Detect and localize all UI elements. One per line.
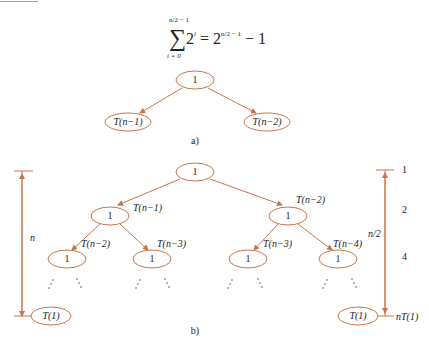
b-edge-label-l1-right: T(n−2) — [296, 194, 326, 206]
b-root-label: 1 — [193, 166, 198, 177]
b-edge-label-l1-left: T(n−1) — [133, 202, 163, 214]
b-l2-2-label: 1 — [150, 253, 155, 264]
b-l1-right-label: 1 — [286, 210, 291, 221]
left-height-label: n — [30, 232, 35, 243]
b-edge-label-l2-2: T(n−3) — [157, 238, 187, 250]
level-count-4: 4 — [402, 251, 407, 262]
right-height-label: n/2 — [368, 228, 381, 239]
b-l2-1-label: 1 — [65, 253, 70, 264]
b-edge-label-l2-1: T(n−2) — [81, 238, 111, 250]
b-l1-left-label: 1 — [108, 210, 113, 221]
b-l2-4-label: 1 — [336, 253, 341, 264]
b-leaf-left-label: T(1) — [42, 310, 60, 322]
a-root-label: 1 — [193, 74, 198, 85]
a-left-label: T(n−1) — [114, 116, 144, 128]
bottom-count-label: nT(1) — [396, 311, 419, 323]
ellipsis-dots — [48, 278, 356, 288]
level-count-2: 2 — [402, 204, 407, 215]
b-l2-3-label: 1 — [246, 253, 251, 264]
a-caption: a) — [191, 135, 199, 147]
b-edge-label-l2-4: T(n−4) — [333, 238, 363, 250]
b-edge-label-l2-3: T(n−3) — [263, 238, 293, 250]
a-right-label: T(n−2) — [253, 116, 283, 128]
level-count-1: 1 — [402, 164, 407, 175]
b-leaf-right-label: T(1) — [349, 310, 367, 322]
recursion-tree-diagram: 1 T(n−1) T(n−2) a) 1 1 1 T(n−1) T(n−2) 1… — [0, 0, 429, 347]
b-caption: b) — [191, 325, 199, 337]
